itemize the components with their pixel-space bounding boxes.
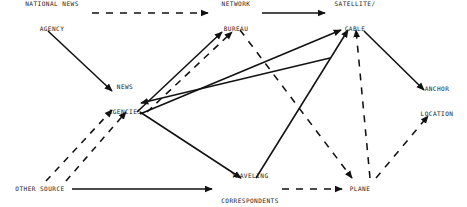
edge-news-agencies-to-network-bureau-dashed bbox=[147, 32, 232, 112]
node-other-source: OTHER SOURCE bbox=[15, 168, 64, 207]
node-plane-line-1: PLANE bbox=[350, 185, 371, 193]
node-plane: PLANE bbox=[350, 168, 371, 207]
node-satellite-cable-line-1: SATELLITE/ bbox=[334, 0, 375, 8]
node-national-news-agency: NATIONAL NEWS AGENCY bbox=[25, 0, 79, 51]
node-network-bureau-line-2: BUREAU bbox=[222, 25, 251, 33]
node-network-bureau: NETWORK BUREAU bbox=[222, 0, 251, 51]
node-traveling-correspondents: TRAVELING CORRESPONDENTS bbox=[221, 155, 279, 207]
node-other-source-line-1: OTHER SOURCE bbox=[15, 185, 64, 193]
node-traveling-correspondents-line-1: TRAVELING bbox=[221, 172, 279, 180]
node-anchor-location-line-2: LOCATION bbox=[421, 110, 454, 118]
node-national-news-agency-line-2: AGENCY bbox=[25, 25, 79, 33]
node-satellite-cable-line-2: CABLE bbox=[334, 25, 375, 33]
node-network-bureau-line-1: NETWORK bbox=[222, 0, 251, 8]
node-news-agencies: NEWS AGENCIES bbox=[109, 66, 142, 133]
node-anchor-location: ANCHOR LOCATION bbox=[421, 68, 454, 135]
news-flow-diagram: NATIONAL NEWS AGENCY NETWORK BUREAU SATE… bbox=[0, 0, 467, 207]
edge-news-agencies-to-network-bureau-solid bbox=[137, 32, 222, 112]
node-traveling-correspondents-line-2: CORRESPONDENTS bbox=[221, 197, 279, 205]
node-news-agencies-line-1: NEWS bbox=[109, 83, 142, 91]
node-satellite-cable: SATELLITE/ CABLE bbox=[334, 0, 375, 51]
edge-plane-to-satellite-cable bbox=[356, 30, 370, 178]
node-news-agencies-line-2: AGENCIES bbox=[109, 108, 142, 116]
node-national-news-agency-line-1: NATIONAL NEWS bbox=[25, 0, 79, 8]
node-anchor-location-line-1: ANCHOR bbox=[421, 85, 454, 93]
